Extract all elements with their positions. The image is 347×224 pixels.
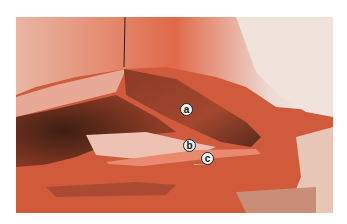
surgical-photo: a b c — [16, 17, 333, 213]
label-b: b — [183, 139, 196, 152]
photo-rendering — [16, 17, 333, 213]
label-c: c — [201, 152, 214, 165]
label-a: a — [180, 103, 193, 116]
